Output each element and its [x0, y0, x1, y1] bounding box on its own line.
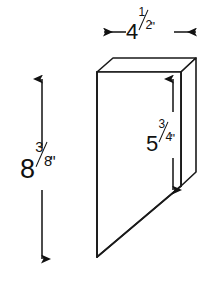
- dimension-label-height: 838": [20, 150, 61, 183]
- panel-side-face: [181, 58, 196, 186]
- dimension-width-whole: 4: [126, 21, 138, 43]
- dimension-height-unit: ": [50, 155, 56, 171]
- panel-front-face: [97, 72, 181, 257]
- dimension-height-whole: 8: [20, 156, 35, 183]
- dimension-right-height-unit: ": [170, 133, 175, 146]
- technical-drawing: [0, 0, 219, 283]
- panel-solid: [97, 58, 196, 257]
- panel-top-face: [97, 58, 196, 72]
- dimension-width-unit: ": [150, 21, 155, 34]
- dimension-label-right-height: 534": [146, 128, 179, 155]
- dimension-label-width: 412": [126, 16, 159, 43]
- dimension-right-height-whole: 5: [146, 133, 158, 155]
